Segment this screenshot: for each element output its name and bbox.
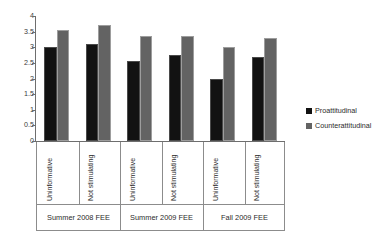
bar-counterattitudinal[interactable]: [140, 36, 152, 141]
y-axis-tick-mark: [32, 79, 35, 80]
y-axis-tick-mark: [32, 141, 35, 142]
bar-proattitudinal[interactable]: [127, 61, 139, 141]
bar-group: [161, 16, 203, 141]
category-label: Uninformative: [129, 158, 137, 201]
bar-proattitudinal[interactable]: [86, 44, 98, 141]
category-separator: [79, 142, 80, 204]
y-axis-tick-mark: [32, 16, 35, 17]
bar-group: [202, 16, 244, 141]
category-label: Uninformative: [212, 158, 220, 201]
bar-group: [119, 16, 161, 141]
legend-label: Counterattitudinal: [315, 121, 371, 130]
category-separator: [203, 142, 204, 204]
legend-swatch-icon: [306, 108, 312, 114]
chart-legend: ProattitudinalCounterattitudinal: [306, 106, 390, 136]
bar-group: [36, 16, 78, 141]
category-separator: [162, 142, 163, 204]
bar-group: [78, 16, 120, 141]
legend-item[interactable]: Proattitudinal: [306, 106, 390, 115]
bar-chart: 43.532.521.510.50 UninformativeNot stimu…: [0, 0, 391, 250]
plot-area: [36, 16, 285, 141]
group-label-band: Summer 2008 FEESummer 2009 FEEFall 2009 …: [36, 205, 285, 231]
group-label: Fall 2009 FEE: [221, 213, 268, 222]
group-separator: [203, 205, 204, 230]
category-cell: Uninformative: [120, 142, 162, 204]
y-axis-tick-labels: 43.532.521.510.50: [14, 11, 34, 143]
category-cell: Uninformative: [203, 142, 245, 204]
bar-counterattitudinal[interactable]: [181, 36, 193, 141]
category-label: Not stimulating: [170, 155, 178, 201]
category-label: Not stimulating: [253, 155, 261, 201]
bar-counterattitudinal[interactable]: [223, 47, 235, 141]
category-label: Uninformative: [46, 158, 54, 201]
bar-proattitudinal[interactable]: [169, 55, 181, 141]
y-axis-tick-mark: [32, 125, 35, 126]
group-label: Summer 2008 FEE: [47, 213, 110, 222]
bar-proattitudinal[interactable]: [252, 57, 264, 141]
group-label: Summer 2009 FEE: [130, 213, 193, 222]
legend-swatch-icon: [306, 123, 312, 129]
group-cell: Summer 2009 FEE: [120, 205, 203, 230]
y-axis-tick-mark: [32, 94, 35, 95]
category-separator: [120, 142, 121, 204]
y-axis-tick-mark: [32, 32, 35, 33]
category-cell: Not stimulating: [162, 142, 204, 204]
category-cell: Not stimulating: [79, 142, 121, 204]
category-label: Not stimulating: [87, 155, 95, 201]
category-separator: [245, 142, 246, 204]
bar-proattitudinal[interactable]: [44, 47, 56, 141]
bar-counterattitudinal[interactable]: [57, 30, 69, 141]
category-cell: Uninformative: [37, 142, 79, 204]
bar-group: [244, 16, 286, 141]
bar-proattitudinal[interactable]: [210, 79, 222, 142]
category-label-band: UninformativeNot stimulatingUninformativ…: [36, 142, 285, 205]
bar-counterattitudinal[interactable]: [98, 25, 110, 141]
group-cell: Summer 2008 FEE: [37, 205, 120, 230]
y-axis-tick-mark: [32, 47, 35, 48]
group-separator: [120, 205, 121, 230]
y-axis-tick-mark: [32, 110, 35, 111]
legend-item[interactable]: Counterattitudinal: [306, 121, 390, 130]
group-cell: Fall 2009 FEE: [203, 205, 286, 230]
bar-counterattitudinal[interactable]: [264, 38, 276, 141]
legend-label: Proattitudinal: [315, 106, 357, 115]
category-cell: Not stimulating: [245, 142, 287, 204]
y-axis-tick-mark: [32, 63, 35, 64]
